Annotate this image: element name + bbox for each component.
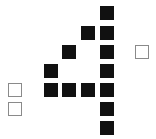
empty-checkbox-cell[interactable] bbox=[8, 83, 22, 97]
filled-cell bbox=[100, 45, 114, 59]
filled-cell bbox=[81, 83, 95, 97]
empty-checkbox-cell[interactable] bbox=[135, 45, 149, 59]
filled-cell bbox=[62, 45, 76, 59]
filled-cell bbox=[44, 64, 58, 78]
filled-cell bbox=[81, 26, 95, 40]
filled-cell bbox=[100, 121, 114, 135]
filled-cell bbox=[100, 64, 114, 78]
filled-cell bbox=[62, 83, 76, 97]
filled-cell bbox=[100, 6, 114, 20]
empty-checkbox-cell[interactable] bbox=[8, 102, 22, 116]
filled-cell bbox=[44, 83, 58, 97]
filled-cell bbox=[100, 83, 114, 97]
filled-cell bbox=[100, 26, 114, 40]
filled-cell bbox=[100, 102, 114, 116]
